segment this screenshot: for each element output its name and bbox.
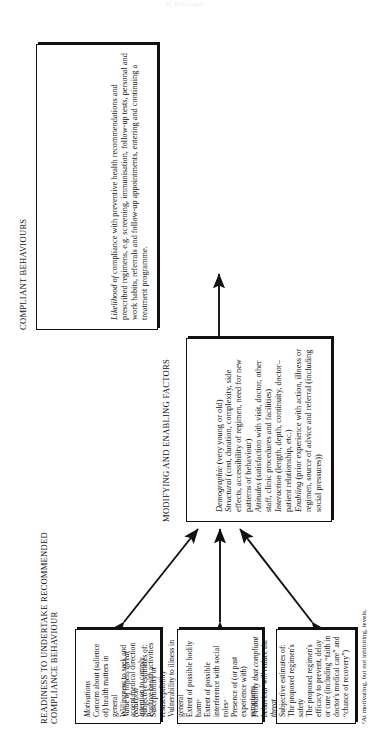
illness-threat-line: Extent of possible interference with soc… — [203, 634, 230, 717]
modifying-term: Enabling — [294, 482, 303, 512]
caption-compliant-behaviours: COMPLIANT BEHAVIOURS — [19, 219, 29, 330]
illness-threat-text: Value of illness threat reduction Subjec… — [122, 634, 257, 717]
motivations-line: Concern about (salience of) health matte… — [92, 634, 119, 717]
compliant-behaviours-text: Likelihood of compliance with preventive… — [110, 52, 150, 320]
modifying-factors-text: Demographic (very young or old) Structur… — [215, 346, 324, 512]
probability-text: Probability that compliant behaviour wil… — [251, 634, 350, 717]
illness-threat-line: Subjective estimates of: — [140, 634, 149, 717]
illness-threat-line: Susceptibility or resusceptibility — [149, 634, 167, 717]
illness-threat-line: Extent of possible bodily harmᵃ — [185, 634, 203, 717]
arrow-readiness3-modifying — [240, 529, 312, 622]
probability-line: Subjective estimates of: — [278, 634, 287, 717]
modifying-item: Demographic (very young or old) — [215, 346, 225, 512]
modifying-term: Structural — [224, 478, 233, 512]
figure-canvas: COMPLIANT BEHAVIOURS Likelihood of compl… — [12, 14, 357, 734]
illness-threat-line: Vulnerability to illness in general — [167, 634, 185, 717]
modifying-item: Attitudes (satisfaction with visit, doct… — [254, 346, 274, 512]
modifying-item: Interaction (length, depth, continuity, … — [274, 346, 294, 512]
modifying-item: Structural (cost, duration, complexity, … — [224, 346, 254, 512]
running-head: H. Bruce and — [0, 1, 369, 10]
caption-readiness-to-undertake: READINESS TO UNDERTAKE RECOMMENDED COMPL… — [40, 494, 60, 724]
modifying-item: Enabling (prior experience with action, … — [294, 346, 324, 512]
probability-line: The proposed regimen's efficacy to preve… — [305, 634, 350, 717]
health-belief-model-diagram: COMPLIANT BEHAVIOURS Likelihood of compl… — [12, 14, 357, 734]
motivations-heading: Motivations — [83, 634, 92, 717]
box-compliant-behaviours: Likelihood of compliance with preventive… — [36, 44, 158, 330]
compliant-lead-italic: Likelihood of — [110, 276, 119, 320]
footnote: ᵃAt motivating, but not inhibiting, leve… — [360, 609, 368, 724]
modifying-term: Attitudes — [254, 483, 263, 513]
box-probability-reduce-threat: Probability that compliant behaviour wil… — [276, 629, 356, 724]
probability-heading: Probability that compliant behaviour wil… — [251, 634, 278, 717]
probability-line: The proposed regimen's safety — [287, 634, 305, 717]
arrow-readiness1-modifying — [124, 529, 198, 622]
modifying-detail: (very young or old) — [215, 400, 224, 467]
caption-modifying-and-enabling-factors: MODIFYING AND ENABLING FACTORS — [162, 332, 172, 522]
modifying-term: Demographic — [215, 466, 224, 512]
modifying-term: Interaction — [274, 475, 283, 512]
box-modifying-and-enabling-factors: Demographic (very young or old) Structur… — [186, 338, 332, 522]
illness-threat-heading: Value of illness threat reduction — [122, 634, 140, 717]
